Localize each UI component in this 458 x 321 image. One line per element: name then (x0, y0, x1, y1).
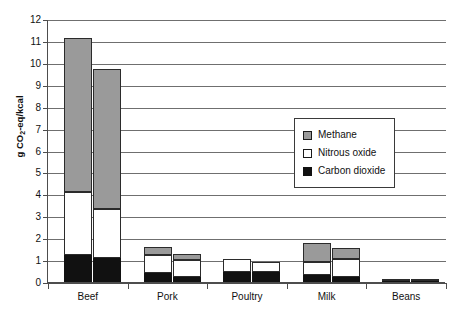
bar-segment-ch4 (303, 243, 331, 263)
x-axis-label-beans: Beans (361, 292, 451, 302)
bar-segment-n2o (223, 259, 251, 272)
bar-segment-co2 (64, 255, 92, 282)
bar-segment-ch4 (64, 38, 92, 193)
bar-group-beef (60, 19, 140, 282)
y-tick-mark-4 (43, 195, 48, 196)
legend-item-methane: Methane (303, 126, 385, 144)
legend-swatch-methane-icon (303, 131, 312, 140)
x-axis-label-pork: Pork (122, 292, 212, 302)
bar-segment-co2 (223, 272, 251, 282)
bar-group-pork (140, 19, 220, 282)
legend-label-nitrous-oxide: Nitrous oxide (318, 148, 376, 158)
y-tick-mark-12 (43, 20, 48, 21)
y-tick-mark-7 (43, 130, 48, 131)
y-tick-mark-10 (43, 64, 48, 65)
bar-segment-n2o (411, 279, 439, 281)
y-tick-label-5: 5 (1, 168, 41, 178)
bar-segment-n2o (332, 259, 360, 277)
bar-segment-n2o (382, 279, 410, 281)
bar-segment-co2 (303, 275, 331, 282)
y-tick-label-10: 10 (1, 59, 41, 69)
legend-label-carbon-dioxide: Carbon dioxide (318, 166, 385, 176)
bar-segment-n2o (303, 262, 331, 275)
x-tick-mark-2 (207, 283, 208, 289)
x-tick-mark-4 (366, 283, 367, 289)
legend-item-carbon-dioxide: Carbon dioxide (303, 162, 385, 180)
y-tick-mark-9 (43, 86, 48, 87)
y-tick-label-6: 6 (1, 147, 41, 157)
x-tick-mark-0 (48, 283, 49, 289)
y-tick-label-1: 1 (1, 256, 41, 266)
x-tick-mark-1 (128, 283, 129, 289)
y-tick-mark-6 (43, 152, 48, 153)
y-tick-label-7: 7 (1, 125, 41, 135)
y-tick-label-12: 12 (1, 15, 41, 25)
bar-segment-co2 (173, 277, 201, 282)
y-tick-label-11: 11 (1, 37, 41, 47)
legend-label-methane: Methane (318, 130, 357, 140)
y-tick-mark-2 (43, 239, 48, 240)
legend-swatch-carbon-dioxide-icon (303, 167, 312, 176)
y-tick-label-4: 4 (1, 190, 41, 200)
bar-segment-co2 (93, 258, 121, 282)
bar-segment-ch4 (93, 69, 121, 208)
bar-segment-n2o (144, 255, 172, 274)
bar-chart: g CO2-eq/kcal 0123456789101112BeefPorkPo… (0, 0, 458, 321)
x-tick-mark-end (446, 283, 447, 289)
bar-segment-n2o (64, 192, 92, 254)
y-tick-mark-8 (43, 108, 48, 109)
bar-group-poultry (219, 19, 299, 282)
x-axis-label-beef: Beef (43, 292, 133, 302)
chart-legend: Methane Nitrous oxide Carbon dioxide (294, 118, 395, 188)
bar-segment-n2o (93, 209, 121, 258)
y-tick-label-8: 8 (1, 103, 41, 113)
y-tick-label-0: 0 (1, 278, 41, 288)
y-tick-label-3: 3 (1, 212, 41, 222)
y-tick-label-9: 9 (1, 81, 41, 91)
y-tick-mark-5 (43, 173, 48, 174)
y-tick-mark-1 (43, 261, 48, 262)
bar-segment-co2 (332, 277, 360, 282)
y-tick-label-2: 2 (1, 234, 41, 244)
bar-segment-ch4 (332, 248, 360, 259)
bar-segment-co2 (252, 272, 280, 282)
legend-item-nitrous-oxide: Nitrous oxide (303, 144, 385, 162)
y-tick-mark-11 (43, 42, 48, 43)
bar-segment-ch4 (173, 254, 201, 261)
bar-segment-n2o (252, 262, 280, 272)
x-tick-mark-3 (287, 283, 288, 289)
legend-swatch-nitrous-oxide-icon (303, 149, 312, 158)
x-axis-label-milk: Milk (282, 292, 372, 302)
y-tick-mark-3 (43, 217, 48, 218)
bar-segment-n2o (173, 260, 201, 276)
gridline-0 (48, 283, 446, 284)
bar-segment-ch4 (144, 247, 172, 255)
bar-segment-co2 (144, 273, 172, 282)
x-axis-label-poultry: Poultry (202, 292, 292, 302)
